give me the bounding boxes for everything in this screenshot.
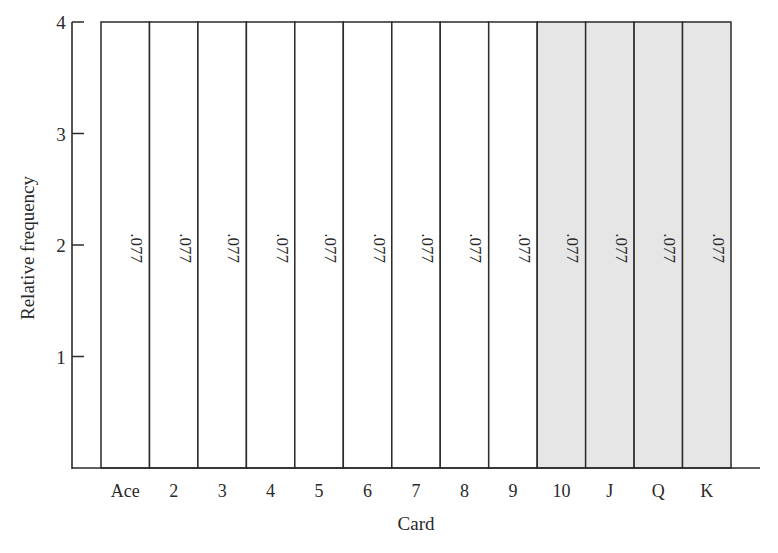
x-tick-label: 7 xyxy=(412,481,421,501)
x-tick-label: K xyxy=(700,481,713,501)
bar-value-label: .077 xyxy=(370,233,389,263)
y-tick-label: 2 xyxy=(56,235,66,256)
x-tick-label: 5 xyxy=(315,481,324,501)
x-tick-labels-group: Ace2345678910JQK xyxy=(111,481,714,501)
bar-value-label: .077 xyxy=(127,233,146,263)
bar-chart: .077.077.077.077.077.077.077.077.077.077… xyxy=(0,0,778,553)
bar-value-label: .077 xyxy=(563,233,582,263)
x-tick-label: 8 xyxy=(460,481,469,501)
bars-group: .077.077.077.077.077.077.077.077.077.077… xyxy=(101,22,731,468)
x-tick-label: 2 xyxy=(169,481,178,501)
x-tick-label: 4 xyxy=(266,481,275,501)
x-tick-label: Q xyxy=(652,481,665,501)
bar-value-label: .077 xyxy=(660,233,679,263)
y-axis-title: Relative frequency xyxy=(17,175,38,320)
bar-value-label: .077 xyxy=(612,233,631,263)
bar-value-label: .077 xyxy=(176,233,195,263)
x-tick-label: 9 xyxy=(508,481,517,501)
y-ticks-group: 1234 xyxy=(56,12,84,368)
bar-value-label: .077 xyxy=(466,233,485,263)
bar-value-label: .077 xyxy=(709,233,728,263)
y-tick-label: 3 xyxy=(56,124,66,145)
x-tick-label: Ace xyxy=(111,481,140,501)
y-tick-label: 4 xyxy=(56,12,66,33)
y-tick-label: 1 xyxy=(56,347,66,368)
bar-value-label: .077 xyxy=(515,233,534,263)
x-tick-label: 10 xyxy=(552,481,570,501)
x-tick-label: 3 xyxy=(218,481,227,501)
bar-value-label: .077 xyxy=(321,233,340,263)
bar-value-label: .077 xyxy=(418,233,437,263)
bar-value-label: .077 xyxy=(273,233,292,263)
bar-value-label: .077 xyxy=(224,233,243,263)
x-tick-label: J xyxy=(606,481,613,501)
x-axis-title: Card xyxy=(398,513,435,534)
x-tick-label: 6 xyxy=(363,481,372,501)
